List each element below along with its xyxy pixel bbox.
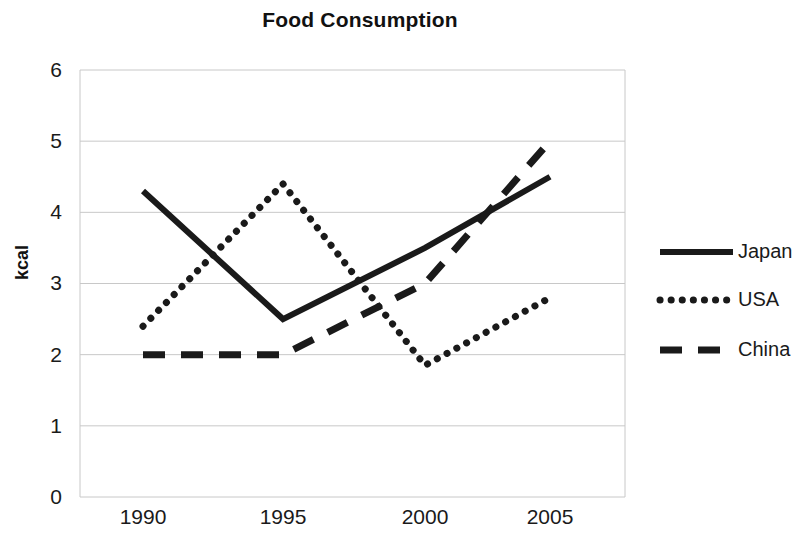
chart-container: Food Consumption kcal 6 5 4 3 2 1 0 1990…: [0, 0, 800, 541]
series-lines: [143, 141, 550, 365]
legend-marks: [660, 252, 733, 350]
plot-area: [0, 0, 800, 541]
legend-label-usa: USA: [738, 288, 779, 311]
series-line-japan: [143, 177, 550, 319]
legend-label-japan: Japan: [738, 240, 793, 263]
legend-label-china: China: [738, 338, 790, 361]
